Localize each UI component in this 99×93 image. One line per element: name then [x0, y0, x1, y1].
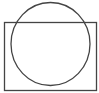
circle-shape: [11, 3, 90, 86]
rectangle-shape: [5, 23, 97, 91]
diagram-canvas: [0, 0, 99, 93]
